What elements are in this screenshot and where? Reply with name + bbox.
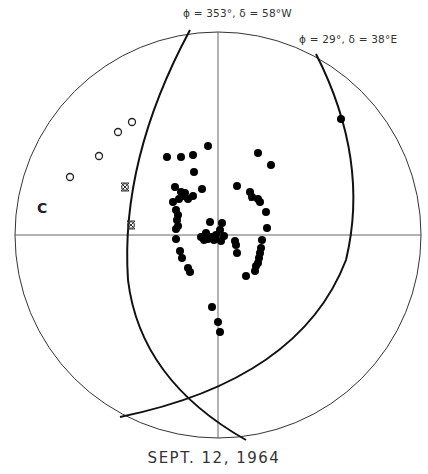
filled-point bbox=[190, 168, 198, 176]
filled-point bbox=[206, 218, 214, 226]
filled-point bbox=[178, 254, 186, 262]
great-circle-label-29: ϕ = 29°, δ = 38°E bbox=[299, 33, 397, 45]
filled-point bbox=[198, 185, 206, 193]
filled-point bbox=[208, 303, 216, 311]
filled-point bbox=[189, 192, 197, 200]
filled-point bbox=[216, 328, 224, 336]
filled-point bbox=[172, 225, 180, 233]
filled-point bbox=[232, 241, 240, 249]
filled-point bbox=[337, 115, 345, 123]
crossed-point bbox=[127, 221, 135, 229]
filled-point bbox=[256, 198, 264, 206]
filled-point bbox=[169, 198, 177, 206]
filled-point bbox=[172, 235, 180, 243]
stereonet-plot bbox=[0, 0, 428, 474]
filled-point bbox=[262, 208, 270, 216]
filled-point bbox=[177, 153, 185, 161]
filled-point bbox=[200, 236, 208, 244]
open-point bbox=[115, 129, 122, 136]
filled-point bbox=[267, 161, 275, 169]
data-points bbox=[67, 115, 346, 336]
great-circle-label-353: ϕ = 353°, δ = 58°W bbox=[183, 7, 292, 19]
filled-point bbox=[217, 237, 225, 245]
chart-caption: SEPT. 12, 1964 bbox=[0, 449, 428, 467]
open-point bbox=[129, 119, 136, 126]
filled-point bbox=[233, 249, 241, 257]
filled-point bbox=[214, 318, 222, 326]
filled-point bbox=[242, 272, 250, 280]
open-point bbox=[96, 153, 103, 160]
filled-point bbox=[251, 267, 259, 275]
c-marker-label: C bbox=[37, 200, 47, 216]
filled-point bbox=[176, 247, 184, 255]
filled-point bbox=[218, 219, 226, 227]
filled-point bbox=[189, 151, 197, 159]
filled-point bbox=[163, 153, 171, 161]
filled-point bbox=[181, 189, 189, 197]
filled-point bbox=[254, 149, 262, 157]
crossed-point bbox=[121, 183, 129, 191]
filled-point bbox=[186, 268, 194, 276]
filled-point bbox=[258, 236, 266, 244]
filled-point bbox=[204, 142, 212, 150]
filled-point bbox=[263, 224, 271, 232]
filled-point bbox=[207, 233, 215, 241]
open-point bbox=[67, 174, 74, 181]
filled-point bbox=[233, 182, 241, 190]
